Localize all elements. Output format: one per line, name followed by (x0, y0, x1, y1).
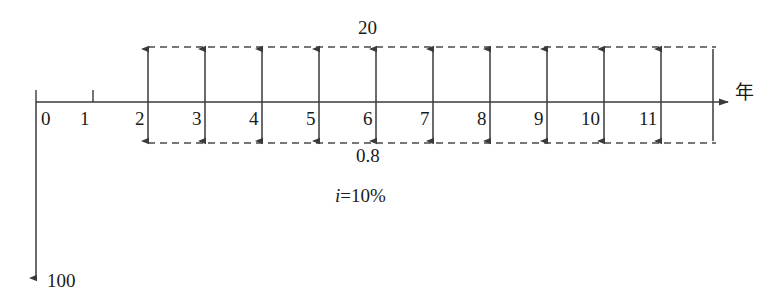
tick-label-year-1: 1 (80, 109, 90, 128)
interest-rate-annotation: i=10% (335, 186, 386, 205)
axis-unit-label: 年 (735, 83, 754, 102)
tick-label-year-8: 8 (477, 109, 487, 128)
initial-investment-label: 100 (47, 271, 76, 290)
tick-label-year-7: 7 (420, 109, 430, 128)
tick-label-year-0: 0 (41, 109, 51, 128)
tick-label-year-5: 5 (306, 109, 316, 128)
tick-label-year-2: 2 (135, 109, 145, 128)
tick-label-year-9: 9 (534, 109, 544, 128)
interest-rate-value: =10% (340, 185, 386, 206)
top-value-label: 20 (358, 18, 377, 37)
tick-label-year-3: 3 (192, 109, 202, 128)
cash-flow-diagram: 20 0.8 100 年 i=10% 0 1 2 3 4 5 6 7 8 9 1… (0, 0, 771, 307)
tick-label-year-6: 6 (363, 109, 373, 128)
tick-label-year-11: 11 (639, 109, 657, 128)
bottom-value-label: 0.8 (356, 146, 380, 165)
diagram-canvas (0, 0, 771, 307)
tick-label-year-4: 4 (249, 109, 259, 128)
tick-label-year-10: 10 (581, 109, 600, 128)
